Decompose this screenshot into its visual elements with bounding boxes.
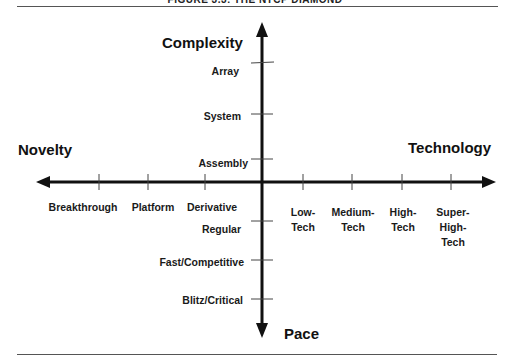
arrow-right-icon	[482, 176, 496, 188]
axis-title-novelty: Novelty	[18, 142, 72, 158]
axis-title-pace: Pace	[284, 326, 319, 342]
axis-title-complexity: Complexity	[162, 35, 243, 51]
novelty-tick-derivative: Derivative	[182, 201, 242, 214]
technology-tick-high: High- Tech	[383, 206, 423, 234]
arrow-down-icon	[256, 323, 268, 338]
pace-tick-blitz-critical: Blitz/Critical	[182, 294, 243, 307]
novelty-tick-platform: Platform	[123, 201, 183, 214]
pace-tick-regular: Regular	[202, 223, 241, 236]
diamond-axes	[0, 0, 510, 361]
technology-tick-medium: Medium- Tech	[325, 206, 381, 234]
arrow-up-icon	[256, 22, 268, 37]
complexity-tick-assembly: Assembly	[198, 157, 248, 170]
arrow-left-icon	[36, 176, 50, 188]
novelty-tick-breakthrough: Breakthrough	[43, 201, 123, 214]
complexity-tick-system: System	[204, 110, 241, 123]
technology-tick-super-high: Super- High- Tech	[431, 206, 475, 249]
complexity-tick-array: Array	[212, 65, 239, 78]
axis-title-technology: Technology	[408, 140, 491, 156]
technology-tick-low: Low- Tech	[283, 206, 323, 234]
pace-tick-fast-competitive: Fast/Competitive	[159, 256, 244, 269]
